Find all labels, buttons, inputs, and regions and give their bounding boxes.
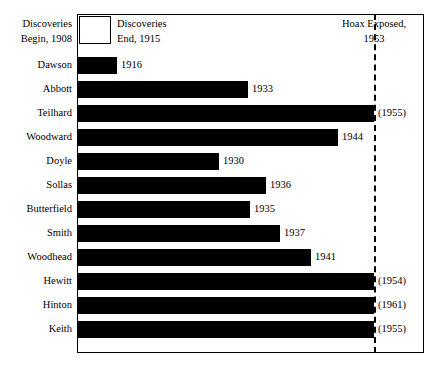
discoveries-begin-line2: Begin, 1908 [0,31,72,46]
bar [78,57,117,74]
discoveries-begin-line1: Discoveries [0,16,72,31]
bar [78,129,338,146]
table-row: Dawson1916 [0,53,442,77]
bar-category-label: Woodward [0,125,72,149]
bar [78,249,311,266]
bar [78,201,250,218]
legend-swatch-discoveries-end [79,16,111,44]
table-row: Smith1937 [0,221,442,245]
discoveries-begin-legend: Discoveries Begin, 1908 [0,16,72,46]
bar [78,273,374,290]
bar-value-label: 1930 [223,149,244,173]
table-row: Abbott1933 [0,77,442,101]
bar-value-label: 1941 [315,245,336,269]
discoveries-end-line2: End, 1915 [117,31,167,46]
bar-category-label: Sollas [0,173,72,197]
table-row: Teilhard(1955) [0,101,442,125]
bar [78,297,374,314]
table-row: Hinton(1961) [0,293,442,317]
bar-category-label: Dawson [0,53,72,77]
bar-category-label: Hinton [0,293,72,317]
bar [78,225,280,242]
bar-value-label: 1936 [270,173,291,197]
bar-value-label: (1955) [378,317,406,341]
table-row: Doyle1930 [0,149,442,173]
bar-value-label: 1933 [252,77,273,101]
table-row: Keith(1955) [0,317,442,341]
bar [78,153,219,170]
bar-value-label: 1935 [254,197,275,221]
bar-value-label: 1944 [342,125,363,149]
bar [78,177,266,194]
hoax-exposed-line2: 1953 [314,31,434,46]
table-row: Hewitt(1954) [0,269,442,293]
bar-value-label: 1916 [121,53,142,77]
bar [78,321,374,338]
bar-value-label: 1937 [284,221,305,245]
hoax-exposed-line1: Hoax Exposed, [314,16,434,31]
table-row: Woodward1944 [0,125,442,149]
bar-category-label: Woodhead [0,245,72,269]
bar-category-label: Hewitt [0,269,72,293]
discoveries-end-line1: Discoveries [117,16,167,31]
bar-category-label: Butterfield [0,197,72,221]
bar-value-label: (1955) [378,101,406,125]
hoax-timeline-chart: Discoveries Begin, 1908 Discoveries End,… [0,0,442,371]
bar-category-label: Smith [0,221,72,245]
bar-value-label: (1954) [378,269,406,293]
bar [78,105,374,122]
bar-value-label: (1961) [378,293,406,317]
discoveries-end-legend: Discoveries End, 1915 [117,16,167,46]
bar-category-label: Keith [0,317,72,341]
hoax-exposed-label: Hoax Exposed, 1953 [314,16,434,46]
table-row: Butterfield1935 [0,197,442,221]
table-row: Woodhead1941 [0,245,442,269]
bar-category-label: Teilhard [0,101,72,125]
bar-category-label: Abbott [0,77,72,101]
bar [78,81,248,98]
table-row: Sollas1936 [0,173,442,197]
bar-category-label: Doyle [0,149,72,173]
